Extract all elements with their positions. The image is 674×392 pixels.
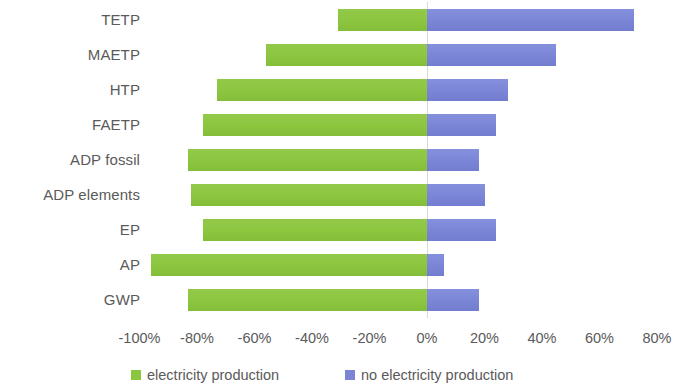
category-axis: TETPMAETPHTPFAETPADP fossilADP elementsE…: [0, 0, 140, 320]
x-axis-tick: 20%: [470, 328, 499, 348]
bar-ep-electricity: [203, 219, 427, 241]
legend-item[interactable]: no electricity production: [345, 364, 513, 386]
bar-faetp-no-electricity: [427, 114, 496, 136]
x-axis-tick: -20%: [353, 328, 387, 348]
x-axis-tick: 80%: [642, 328, 671, 348]
bar-ap-electricity: [151, 254, 427, 276]
chart-legend: electricity productionno electricity pro…: [0, 364, 674, 390]
bar-adp-elements-electricity: [191, 184, 427, 206]
category-label: TETP: [0, 11, 140, 29]
category-label: GWP: [0, 291, 140, 309]
bar-gwp-electricity: [188, 289, 427, 311]
x-axis-tick: 40%: [527, 328, 556, 348]
value-axis: -100%-80%-60%-40%-20%0%20%40%60%80%: [128, 328, 674, 350]
x-axis-tick: -40%: [295, 328, 329, 348]
plot-area: [128, 0, 674, 322]
x-axis-tick: -100%: [119, 328, 161, 348]
x-axis-tick: 0%: [417, 328, 438, 348]
category-label: AP: [0, 256, 140, 274]
legend-swatch-green: [131, 370, 141, 380]
bar-gwp-no-electricity: [427, 289, 479, 311]
category-label: FAETP: [0, 116, 140, 134]
legend-swatch-blue: [345, 370, 355, 380]
x-axis-tick: 60%: [585, 328, 614, 348]
bar-maetp-electricity: [266, 44, 427, 66]
bar-maetp-no-electricity: [427, 44, 556, 66]
bar-adp-fossil-electricity: [188, 149, 427, 171]
bar-tetp-no-electricity: [427, 9, 634, 31]
category-label: MAETP: [0, 46, 140, 64]
bar-tetp-electricity: [338, 9, 427, 31]
horizontal-bar-chart: TETPMAETPHTPFAETPADP fossilADP elementsE…: [0, 0, 674, 392]
legend-label: electricity production: [147, 366, 279, 384]
x-axis-tick: -60%: [238, 328, 272, 348]
bar-adp-elements-no-electricity: [427, 184, 485, 206]
bar-ap-no-electricity: [427, 254, 444, 276]
x-axis-tick: -80%: [180, 328, 214, 348]
legend-item[interactable]: electricity production: [131, 364, 279, 386]
category-label: HTP: [0, 81, 140, 99]
bar-adp-fossil-no-electricity: [427, 149, 479, 171]
bar-htp-electricity: [217, 79, 427, 101]
category-label: EP: [0, 221, 140, 239]
bar-ep-no-electricity: [427, 219, 496, 241]
bar-faetp-electricity: [203, 114, 427, 136]
bar-htp-no-electricity: [427, 79, 508, 101]
category-label: ADP fossil: [0, 151, 140, 169]
category-label: ADP elements: [0, 186, 140, 204]
legend-label: no electricity production: [361, 366, 513, 384]
